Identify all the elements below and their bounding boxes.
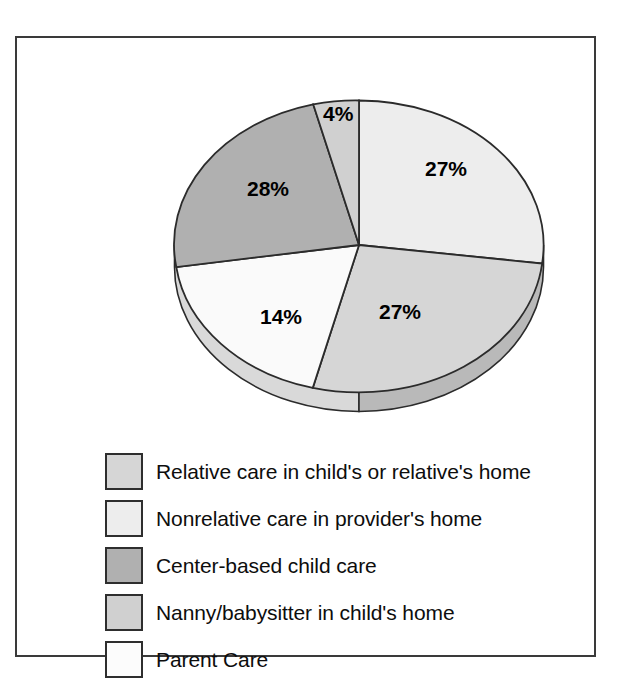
chart-frame-border: 27% 27% 14% 28% 4% Relative care in chil… [15, 36, 596, 657]
legend-item-nanny-babysitter[interactable]: Nanny/babysitter in child's home [105, 589, 575, 636]
legend-item-nonrelative-care[interactable]: Nonrelative care in provider's home [105, 495, 575, 542]
legend-swatch-icon-center-based-care [105, 547, 143, 584]
pie-slice-nonrelative-care [359, 100, 544, 263]
legend-swatch-icon-nanny-babysitter [105, 594, 143, 631]
legend-label-center-based-care: Center-based child care [156, 554, 377, 578]
pie-label-nanny-babysitter: 4% [323, 102, 353, 126]
legend-swatch-icon-relative-care [105, 453, 143, 490]
legend-item-parent-care[interactable]: Parent Care [105, 636, 575, 682]
chart-legend: Relative care in child's or relative's h… [105, 448, 575, 682]
legend-swatch-icon-nonrelative-care [105, 500, 143, 537]
legend-label-relative-care: Relative care in child's or relative's h… [156, 460, 531, 484]
pie-chart-svg [147, 83, 567, 428]
legend-swatch-icon-parent-care [105, 641, 143, 678]
pie-top-face [174, 100, 544, 392]
legend-label-nanny-babysitter: Nanny/babysitter in child's home [156, 601, 454, 625]
legend-label-nonrelative-care: Nonrelative care in provider's home [156, 507, 482, 531]
pie-label-parent-care: 14% [260, 305, 302, 329]
legend-label-parent-care: Parent Care [156, 648, 268, 672]
pie-label-nonrelative-care: 27% [425, 157, 467, 181]
legend-item-center-based-care[interactable]: Center-based child care [105, 542, 575, 589]
pie-label-relative-care: 27% [379, 300, 421, 324]
pie-chart-area: 27% 27% 14% 28% 4% [17, 38, 619, 438]
legend-item-relative-care[interactable]: Relative care in child's or relative's h… [105, 448, 575, 495]
pie-label-center-based-care: 28% [247, 177, 289, 201]
